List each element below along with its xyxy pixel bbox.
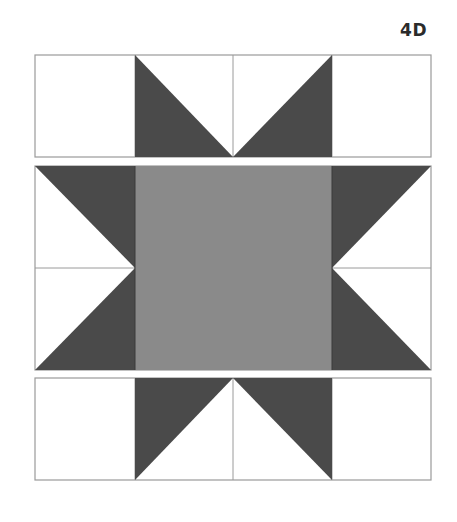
bottom-strip [35, 378, 431, 480]
center-square [135, 166, 332, 370]
top-strip [35, 55, 431, 157]
quilt-block-diagram [0, 0, 457, 522]
middle-strip [35, 166, 431, 370]
